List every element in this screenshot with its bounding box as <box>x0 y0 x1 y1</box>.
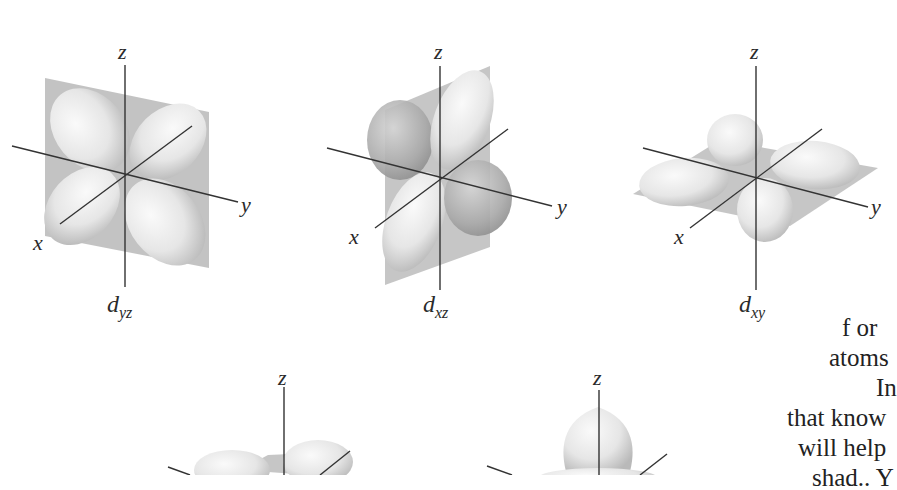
orbital-label-base: d <box>739 291 751 317</box>
orbital-dz2-diagram <box>487 390 667 475</box>
z-axis-label: z <box>118 41 127 63</box>
x-axis-label: x <box>349 226 359 248</box>
z-axis-label: z <box>593 367 602 389</box>
y-axis-label: y <box>557 196 567 218</box>
dz2-upper-lobe <box>563 407 632 475</box>
x-axis <box>640 454 667 475</box>
orbital-dxy-diagram <box>633 66 878 290</box>
body-text-line: that know <box>787 405 886 430</box>
orbital-dx2y2-diagram <box>168 387 353 475</box>
x-axis-label: x <box>674 226 684 248</box>
orbital-dxz-diagram <box>327 62 552 290</box>
body-text-line: will help <box>798 435 886 460</box>
orbital-label-subscript: xz <box>435 304 448 321</box>
body-text-line: In <box>876 375 897 400</box>
z-axis-label: z <box>434 41 443 63</box>
orbital-label-dxz: dxz <box>423 292 448 321</box>
y-axis <box>487 466 512 475</box>
body-text-line: shad.. Y <box>812 465 894 490</box>
orbital-label-base: d <box>107 291 119 317</box>
orbital-dyz-diagram <box>12 65 238 287</box>
body-text-line: f or <box>842 315 877 340</box>
z-axis-label: z <box>750 41 759 63</box>
body-text-line: atoms <box>829 345 889 370</box>
y-axis <box>168 467 190 475</box>
orbital-label-subscript: yz <box>119 304 132 321</box>
z-axis-label: z <box>278 367 287 389</box>
x-axis-label: x <box>33 232 43 254</box>
orbital-label-subscript: xy <box>751 304 765 321</box>
orbital-label-dyz: dyz <box>107 292 132 321</box>
orbital-label-base: d <box>423 291 435 317</box>
y-axis-label: y <box>241 194 251 216</box>
orbital-label-dxy: dxy <box>739 292 765 321</box>
y-axis-label: y <box>871 196 881 218</box>
